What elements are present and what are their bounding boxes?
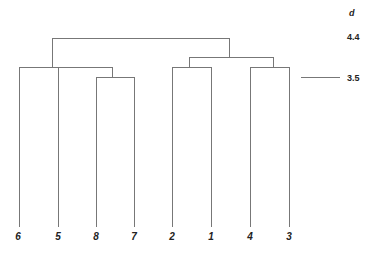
leaf-label-6: 6 [10, 231, 26, 242]
tick-label-3-5: 3.5 [347, 73, 360, 83]
leaf-label-3: 3 [281, 231, 297, 242]
leaf-label-5: 5 [50, 231, 66, 242]
tick-label-4-4: 4.4 [347, 32, 360, 42]
leaf-label-7: 7 [126, 231, 142, 242]
dendrogram [0, 0, 374, 256]
leaf-label-2: 2 [164, 231, 180, 242]
leaf-label-8: 8 [88, 231, 104, 242]
leaf-label-4: 4 [242, 231, 258, 242]
axis-title: d [349, 8, 355, 18]
leaf-label-1: 1 [203, 231, 219, 242]
